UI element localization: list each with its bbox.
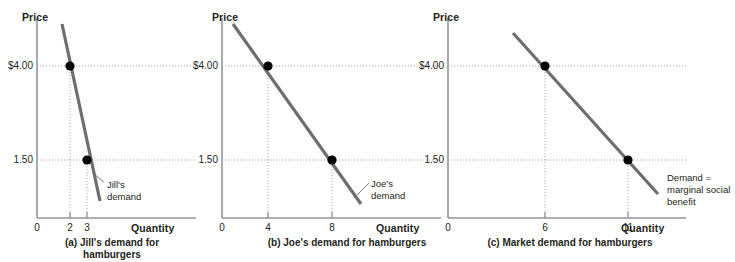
xtick-label-3: 3 [78,222,96,233]
ytick-label-150: 1.50 [406,154,444,165]
xtick-label-11: 11 [619,222,637,233]
panel-caption-line1: (b) Joe's demand for hamburgers [225,237,469,249]
panel-caption-line1: (a) Jill's demand for [0,237,224,249]
xtick-label-4: 4 [259,222,277,233]
data-point-3-150 [82,155,91,164]
origin-label: 0 [28,222,46,233]
data-point-4-400 [263,61,272,70]
origin-label: 0 [213,222,231,233]
y-axis-title: Price [433,11,459,23]
curve-annotation-line2: demand [107,191,141,203]
demand-curve-joe [233,24,361,204]
ytick-label-400: $4.00 [180,60,218,71]
x-axis-title: Quantity [376,222,419,234]
panel-c-plot [490,0,735,262]
y-axis-title: Price [212,11,238,23]
panel-caption-line1: (c) Market demand for hamburgers [445,237,695,249]
panel-market-demand: Price Quantity $4.00 1.50 0 6 11 Demand … [490,0,735,262]
annotation-leader-line [357,183,369,195]
ytick-label-150: 1.50 [0,154,33,165]
data-point-11-150 [623,155,632,164]
curve-annotation-line3: benefit [667,196,696,208]
ytick-label-150: 1.50 [180,154,218,165]
data-point-8-150 [327,155,336,164]
curve-annotation-line1: Demand = [667,172,711,184]
curve-annotation-line2: marginal social [667,184,730,196]
data-point-6-400 [540,61,549,70]
y-axis-title: Price [22,11,48,23]
x-axis-title: Quantity [131,222,174,234]
demand-curve-market [513,33,658,194]
curve-annotation-line1: Joe's [371,178,393,190]
curve-annotation-line1: Jill's [107,179,125,191]
ytick-label-400: $4.00 [0,60,33,71]
origin-label: 0 [439,222,457,233]
ytick-label-400: $4.00 [406,60,444,71]
xtick-label-8: 8 [323,222,341,233]
xtick-label-2: 2 [61,222,79,233]
demand-curves-figure: Price Quantity $4.00 1.50 0 2 3 Jill's d… [0,0,735,262]
data-point-2-400 [65,61,74,70]
xtick-label-6: 6 [536,222,554,233]
panel-jills-demand: Price Quantity $4.00 1.50 0 2 3 Jill's d… [0,0,245,262]
panel-caption-line2: hamburgers [0,249,224,261]
curve-annotation-line2: demand [371,190,405,202]
